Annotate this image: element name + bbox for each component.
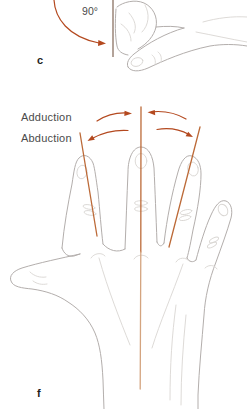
index-knuckle-arc: [91, 254, 105, 258]
ring-joint-crease-1: [180, 209, 193, 216]
panel-f-adduction-abduction: Adduction Abduction f: [10, 107, 231, 409]
pinky-and-ulnar-edge-outline: [196, 201, 232, 409]
index-axis-line: [80, 133, 97, 236]
fist-left-edge: [115, 9, 128, 55]
fist-sketch: [115, 1, 247, 71]
ring-knuckle-arc: [176, 258, 189, 262]
thumb-crease-line-1: [30, 272, 46, 277]
abduction-arrow-left: [92, 130, 128, 138]
adduction-arrow-left: [97, 113, 127, 121]
finger-fold-line-2: [129, 13, 135, 33]
index-middle-web: [103, 244, 125, 251]
abduction-arrowhead-left-icon: [88, 135, 95, 141]
adduction-arrowhead-right-icon: [148, 110, 156, 115]
index-joint-crease-2: [84, 210, 97, 216]
panel-f-label: f: [37, 387, 41, 399]
thumb-nail-outline: [130, 56, 144, 68]
adduction-label: Adduction: [21, 111, 72, 123]
adduction-arrowhead-left-icon: [124, 111, 132, 116]
hand-top-edge: [156, 26, 184, 28]
pinky-knuckle-arc: [205, 265, 217, 269]
panel-c-label: c: [37, 54, 43, 66]
adduction-arrow-right: [152, 112, 186, 119]
pinky-nail-outline: [216, 203, 229, 218]
wrist-top-line: [203, 17, 247, 22]
thumb-crease-line-2: [33, 281, 47, 284]
rotation-arc-arrowhead-icon: [98, 40, 106, 46]
panel-c-thumb-flexion: 90° c: [37, 0, 247, 71]
thumb-crease-2: [158, 52, 161, 62]
index-tendon-line: [99, 258, 130, 345]
thumb-and-wrist-outline: [10, 254, 104, 409]
abduction-label: Abduction: [21, 132, 72, 144]
hand-motion-figure: 90° c: [0, 0, 247, 409]
wrist-inner-line: [196, 32, 247, 42]
dorsal-hand-sketch: [10, 147, 231, 409]
middle-axis-line-lower: [140, 252, 141, 389]
angle-90-label: 90°: [82, 5, 98, 17]
ring-tendon-line: [152, 264, 183, 348]
pinky-joint-crease-1: [209, 236, 220, 244]
index-joint-crease-1: [83, 204, 96, 210]
wrist-line-1: [170, 305, 176, 400]
ring-joint-crease-2: [179, 215, 192, 222]
pinky-joint-crease-2: [207, 241, 218, 249]
thumb-crease-1: [152, 55, 155, 65]
anatomy-figure-page: 90° c: [0, 0, 247, 409]
thumb-lower-edge: [128, 45, 247, 71]
wrist-line-2: [181, 315, 186, 405]
middle-ring-web: [157, 242, 164, 246]
finger-fold-line-1: [142, 5, 148, 32]
finger-fold-line-3: [121, 24, 131, 41]
abduction-arrowhead-right-icon: [186, 132, 193, 137]
abduction-arrow-right: [157, 129, 189, 135]
